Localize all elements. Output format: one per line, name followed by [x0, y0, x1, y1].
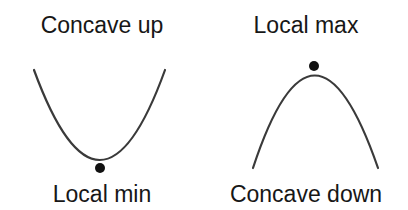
local-min-point [95, 163, 105, 173]
concave-down-label: Concave down [204, 183, 408, 206]
local-max-point [309, 61, 319, 71]
local-min-label: Local min [0, 183, 204, 206]
concave-down-curve [253, 76, 378, 169]
concavity-figure: Concave up Local min Local max Concave d… [0, 0, 408, 210]
concave-up-label: Concave up [0, 14, 204, 37]
concave-up-curve [34, 70, 165, 160]
local-max-label: Local max [204, 14, 408, 37]
